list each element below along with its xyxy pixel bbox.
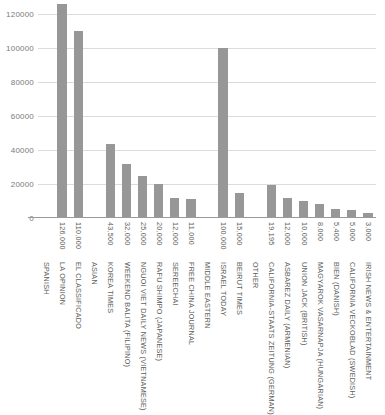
bar-slot: [328, 14, 344, 218]
x-axis-label-slot: MIDDLE EASTERN: [199, 220, 215, 403]
x-axis-label-slot: 12,000ASBAREZ DAILY (ARMENIAN): [279, 220, 295, 403]
x-axis-label-slot: 12,000SEREECHAI: [167, 220, 183, 403]
bar[interactable]: [315, 204, 324, 218]
x-axis-label-slot: 10,000UNION JACK (BRITISH): [296, 220, 312, 403]
bar-slot: [183, 14, 199, 218]
x-axis-value-label: 10,000: [300, 222, 307, 245]
x-axis-category-label: SPANISH: [42, 262, 49, 295]
x-axis-label-slot: 3,000IRISH NEWS & ENTERTAINMENT: [360, 220, 376, 403]
x-axis-category-label: RAFU SHIMPO (JAPANESE): [155, 262, 162, 361]
x-axis-label-slot: ASIAN: [86, 220, 102, 403]
bar-slot: [135, 14, 151, 218]
x-axis-value-label: 15,000: [236, 222, 243, 245]
bar-slot: [86, 14, 102, 218]
bar-slot: [296, 14, 312, 218]
x-axis-label-slot: OTHER: [247, 220, 263, 403]
bar-slot: [263, 14, 279, 218]
x-axis-value-label: 32,000: [123, 222, 130, 245]
y-axis-tick-label: 100000: [6, 43, 34, 52]
x-axis-category-label: SEREECHAI: [171, 262, 178, 306]
bar[interactable]: [170, 198, 179, 218]
x-axis-value-label: 5,000: [348, 222, 355, 241]
y-axis-tick-label: 40000: [11, 145, 34, 154]
bar-slot: [360, 14, 376, 218]
bar[interactable]: [186, 199, 195, 218]
x-axis-value-label: 12,000: [171, 222, 178, 245]
y-axis-tick-label: 0: [29, 214, 34, 223]
x-axis-category-label: EL CLASSIFICADO: [75, 262, 82, 329]
x-axis-category-label: OTHER: [252, 262, 259, 288]
x-axis-label-slot: SPANISH: [38, 220, 54, 403]
bar[interactable]: [154, 184, 163, 218]
x-axis-category-label: KOREA TIMES: [107, 262, 114, 313]
bar-slot: [215, 14, 231, 218]
bar-slot: [199, 14, 215, 218]
x-axis-category-label: UNION JACK (BRITISH): [300, 262, 307, 346]
bar[interactable]: [283, 198, 292, 218]
x-axis-category-label: IRISH NEWS & ENTERTAINMENT: [364, 262, 371, 380]
x-axis-category-label: CALIFORNIA VECKOBLAD (SWEDISH): [348, 262, 355, 399]
x-axis-category-label: ISRAEL TODAY: [219, 262, 226, 316]
y-axis-tick-label: 20000: [11, 180, 34, 189]
x-axis-category-label: WEEKEND BALITA (FILIPINO): [123, 262, 130, 367]
bar-slot: [344, 14, 360, 218]
bar[interactable]: [218, 48, 227, 218]
bar[interactable]: [57, 4, 66, 218]
bar-slot: [247, 14, 263, 218]
x-axis-label-slot: 11,000FREE CHINA JOURNAL: [183, 220, 199, 403]
bar-slot: [231, 14, 247, 218]
x-axis-label-slot: 15,000BEIRUT TIMES: [231, 220, 247, 403]
x-axis-label-slot: 25,000NGUOI VIET DAILY NEWS (VIETNAMESE): [135, 220, 151, 403]
x-axis-value-label: 19,195: [268, 222, 275, 245]
x-axis-label-slot: 8,000MAGYAROK VASARNAPJA (HUNGARIAN): [312, 220, 328, 403]
x-axis-category-label: LA OPINION: [59, 262, 66, 305]
x-axis-value-label: 25,000: [139, 222, 146, 245]
x-axis-category-label: BEIRUT TIMES: [236, 262, 243, 315]
x-axis-category-label: MAGYAROK VASARNAPJA (HUNGARIAN): [316, 262, 323, 409]
x-axis-value-label: 20,000: [155, 222, 162, 245]
plot-area: 120000100000800006000040000200000: [38, 14, 376, 218]
x-axis-value-label: 126,000: [59, 222, 66, 250]
x-axis-category-label: CALIFORNIA-STAATS ZEITUNG (GERMAN): [268, 262, 275, 415]
bar-slot: [312, 14, 328, 218]
bar[interactable]: [267, 185, 276, 218]
bar-slot: [102, 14, 118, 218]
bar[interactable]: [299, 201, 308, 218]
x-axis-label-slot: 43,500KOREA TIMES: [102, 220, 118, 403]
x-axis-value-label: 3,000: [364, 222, 371, 241]
x-axis-value-label: 8,000: [316, 222, 323, 241]
bar-slot: [151, 14, 167, 218]
x-axis-label-slot: 100,000ISRAEL TODAY: [215, 220, 231, 403]
x-axis-line: [28, 217, 376, 218]
x-axis-value-label: 12,000: [284, 222, 291, 245]
bar-series: [38, 14, 376, 218]
x-axis-category-label: FREE CHINA JOURNAL: [187, 262, 194, 345]
y-axis-tick-label: 80000: [11, 77, 34, 86]
x-axis-category-label: ASBAREZ DAILY (ARMENIAN): [284, 262, 291, 368]
x-axis-label-slot: 20,000RAFU SHIMPO (JAPANESE): [151, 220, 167, 403]
bar-slot: [38, 14, 54, 218]
x-axis-value-label: 110,000: [75, 222, 82, 249]
x-axis-label-slot: 32,000WEEKEND BALITA (FILIPINO): [118, 220, 134, 403]
x-axis-category-label: NGUOI VIET DAILY NEWS (VIETNAMESE): [139, 262, 146, 411]
bar[interactable]: [235, 193, 244, 219]
x-axis-category-labels: SPANISH126,000LA OPINION110,000EL CLASSI…: [38, 220, 376, 403]
bar-slot: [54, 14, 70, 218]
x-axis-value-label: 100,000: [219, 222, 226, 250]
y-axis-tick-label: 60000: [11, 112, 34, 121]
x-axis-label-slot: 19,195CALIFORNIA-STAATS ZEITUNG (GERMAN): [263, 220, 279, 403]
bar[interactable]: [138, 176, 147, 219]
x-axis-label-slot: 5,400BIEN (DANISH): [328, 220, 344, 403]
x-axis-category-label: ASIAN: [91, 262, 98, 285]
bar-slot: [167, 14, 183, 218]
y-axis-tick-label: 120000: [6, 10, 34, 19]
x-axis-category-label: BIEN (DANISH): [332, 262, 339, 316]
bar[interactable]: [106, 144, 115, 218]
bar[interactable]: [74, 31, 83, 218]
bar-slot: [70, 14, 86, 218]
bar[interactable]: [122, 164, 131, 218]
x-axis-category-label: MIDDLE EASTERN: [203, 262, 210, 329]
x-axis-value-label: 11,000: [187, 222, 194, 245]
x-axis-value-label: 43,500: [107, 222, 114, 245]
